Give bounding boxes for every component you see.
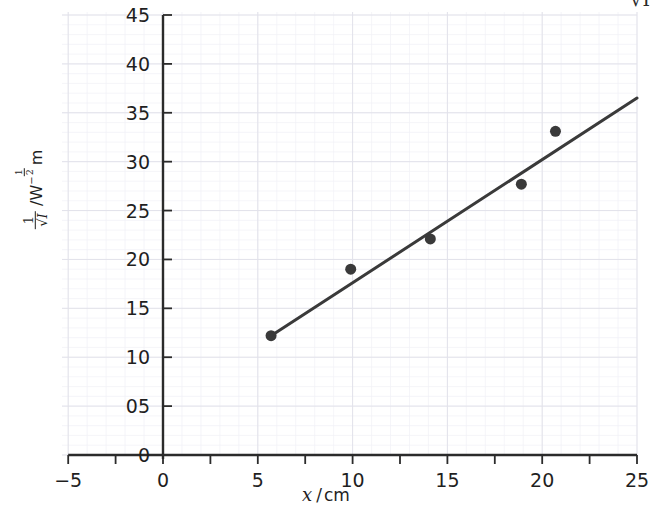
x-tick-label: 15 (435, 469, 459, 491)
y-axis-label-separator: / (27, 201, 46, 206)
y-tick-label: 05 (88, 395, 150, 417)
data-point (345, 264, 356, 275)
x-axis-label-separator: / (312, 485, 324, 505)
x-axis (68, 455, 637, 464)
plot-background (62, 12, 637, 455)
data-point (516, 179, 527, 190)
y-axis-label: 1 √I /W− 1 2 m (16, 114, 50, 264)
y-axis-label-exponent-numerator: 1 (14, 168, 24, 176)
y-tick-label: 45 (88, 4, 150, 26)
y-tick-label: 0 (88, 444, 150, 466)
y-axis-label-denominator: √I (35, 211, 49, 228)
y-axis-label-fraction: 1 √I (22, 211, 50, 228)
y-tick-label: 10 (88, 346, 150, 368)
y-axis-label-numerator: 1 (22, 211, 35, 228)
y-axis-label-unit-tail: m (27, 150, 46, 169)
y-tick-label: 30 (88, 151, 150, 173)
y-axis-label-unit-base: W (27, 185, 46, 201)
y-tick-label: 20 (88, 248, 150, 270)
x-tick-label: 10 (341, 469, 365, 491)
x-tick-label: −5 (54, 469, 82, 491)
y-tick-label: 25 (88, 200, 150, 222)
y-tick-label: 35 (88, 102, 150, 124)
y-axis-label-exponent-denominator: 2 (23, 168, 34, 176)
x-tick-label: 20 (530, 469, 554, 491)
chart-figure: √I 1 √I /W− 1 2 m x/cm 00510152025303540… (0, 0, 652, 514)
data-point (550, 126, 561, 137)
x-tick-label: 5 (252, 469, 264, 491)
y-axis-label-exponent-sign: − (25, 176, 36, 184)
y-tick-label: 40 (88, 53, 150, 75)
x-axis-label-symbol: x (302, 484, 312, 505)
y-tick-label: 15 (88, 297, 150, 319)
x-tick-label: 0 (157, 469, 169, 491)
y-axis-label-exponent-fraction: 1 2 (14, 168, 34, 176)
x-tick-label: 25 (625, 469, 649, 491)
